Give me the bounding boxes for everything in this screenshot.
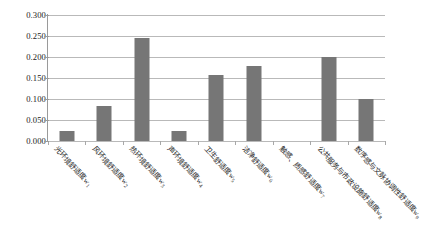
y-axis-tick	[44, 99, 49, 100]
x-axis-category-label: 声环境舒适度w4	[165, 145, 206, 188]
bar-slot	[235, 15, 272, 141]
x-axis-tick	[385, 141, 386, 145]
y-axis-tick-label: 0.300	[2, 10, 46, 20]
bar[interactable]	[172, 131, 187, 142]
y-axis-tick	[44, 57, 49, 58]
y-axis-tick-label: 0.000	[2, 136, 46, 146]
x-axis-category-label: 光环境舒适度w1	[53, 145, 94, 188]
bar[interactable]	[59, 131, 74, 141]
y-axis-tick	[44, 120, 49, 121]
y-axis-tick	[44, 78, 49, 79]
y-axis-tick	[44, 15, 49, 16]
y-axis-tick-label: 0.200	[2, 52, 46, 62]
y-axis-tick-label: 0.050	[2, 115, 46, 125]
bar[interactable]	[359, 99, 374, 141]
bar-slot	[198, 15, 235, 141]
y-axis-tick	[44, 36, 49, 37]
x-axis-category-label: 风环境舒适度w2	[90, 145, 131, 188]
bar[interactable]	[97, 106, 112, 141]
bar[interactable]	[321, 57, 336, 141]
y-axis-tick-labels: 0.3000.2500.2000.1500.1000.0500.000	[0, 0, 46, 246]
bar[interactable]	[246, 66, 261, 141]
x-axis-category-label: 洁净舒适度w6	[240, 145, 276, 183]
x-axis-category-label: 卫生舒适度w5	[203, 145, 239, 183]
x-axis-category-label: 公共服务与市政设施舒适度w8	[315, 145, 385, 220]
x-axis-category-label: 数序感与文脉协调性舒适度w9	[352, 145, 422, 220]
x-axis-category-labels: 光环境舒适度w1风环境舒适度w2热环境舒适度w3声环境舒适度w4卫生舒适度w5洁…	[48, 143, 385, 246]
y-axis-tick-label: 0.250	[2, 31, 46, 41]
bar-slot	[310, 15, 347, 141]
y-axis-tick	[44, 141, 49, 142]
bar[interactable]	[134, 38, 149, 141]
bar-series	[48, 15, 385, 141]
y-axis-tick-label: 0.100	[2, 94, 46, 104]
bar-slot	[348, 15, 385, 141]
bar[interactable]	[209, 75, 224, 141]
bar-slot	[48, 15, 85, 141]
bar-slot	[273, 15, 310, 141]
x-axis-category-label: 热环境舒适度w3	[128, 145, 169, 188]
bar-slot	[160, 15, 197, 141]
bar-slot	[85, 15, 122, 141]
y-axis-tick-label: 0.150	[2, 73, 46, 83]
bar-slot	[123, 15, 160, 141]
